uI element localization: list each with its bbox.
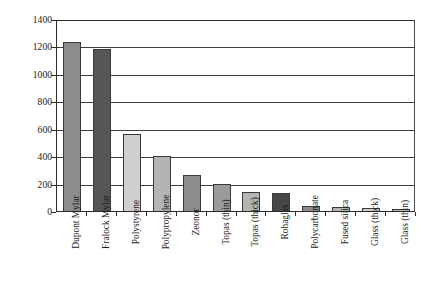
x-label-slot: Topas (thin): [213, 218, 229, 298]
x-category-label: Glass (thin): [400, 200, 411, 244]
bar: [63, 42, 81, 211]
x-tick-mark: [415, 212, 416, 216]
y-tick-label: 800: [18, 97, 52, 107]
x-category-label: Polycarbonate: [310, 195, 321, 249]
x-category-label: Fralock Mylar: [101, 195, 112, 249]
x-category-label: Topas (thin): [221, 199, 232, 244]
y-axis-title: Initial intensity/counts: [0, 0, 16, 34]
y-tick-label: 1000: [18, 70, 52, 80]
x-label-slot: Fralock Mylar: [93, 218, 109, 298]
y-tick-label: 0: [18, 207, 52, 217]
x-category-label: Rohaglas: [280, 205, 291, 240]
x-label-slot: Rohaglas: [272, 218, 288, 298]
y-tick-label: 600: [18, 125, 52, 135]
x-label-slot: Glass (thin): [392, 218, 408, 298]
x-label-slot: Polycarbonate: [302, 218, 318, 298]
x-category-label: Polypropylene: [161, 195, 172, 250]
x-label-slot: Fused silica: [332, 218, 348, 298]
x-label-slot: Topas (thick): [242, 218, 258, 298]
x-axis-category-labels: Dupont MylarFralock MylarPolystyrenePoly…: [56, 212, 415, 299]
x-label-slot: Dupont Mylar: [63, 218, 79, 298]
bar: [183, 175, 201, 211]
y-tick-label: 200: [18, 180, 52, 190]
y-tick-label: 1200: [18, 42, 52, 52]
y-tick-label: 400: [18, 152, 52, 162]
bars-layer: [57, 19, 414, 211]
x-label-slot: Zeonor: [183, 218, 199, 298]
bar-chart-figure: Initial intensity/counts 140012001000800…: [0, 0, 436, 299]
x-category-label: Topas (thick): [250, 197, 261, 247]
x-label-slot: Polystyrene: [123, 218, 139, 298]
x-category-label: Zeonor: [191, 208, 202, 235]
x-category-label: Polystyrene: [131, 200, 142, 244]
x-category-label: Fused silica: [340, 200, 351, 245]
y-axis-tick-labels: 1400120010008006004002000: [18, 14, 52, 218]
plot-area: [56, 20, 415, 212]
x-category-label: Dupont Mylar: [71, 195, 82, 248]
y-tick-label: 1400: [18, 15, 52, 25]
x-category-label: Glass (thick): [370, 198, 381, 246]
x-label-slot: Glass (thick): [362, 218, 378, 298]
x-label-slot: Polypropylene: [153, 218, 169, 298]
bar: [93, 49, 111, 211]
